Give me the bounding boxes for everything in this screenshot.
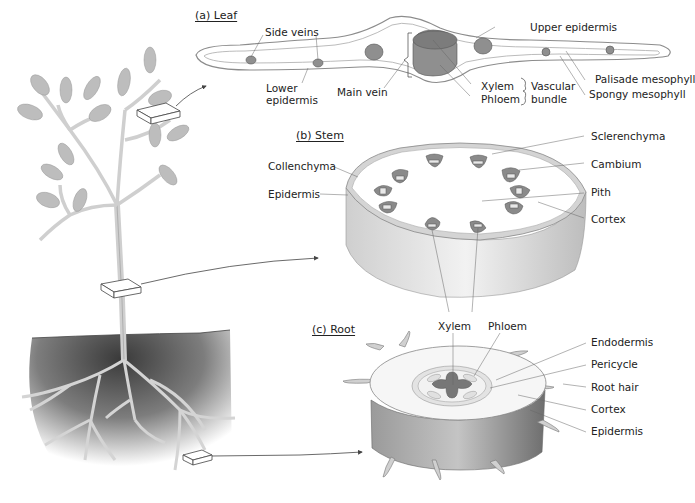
label-lower-epidermis-line2: epidermis [266,94,318,106]
label-side-veins: Side veins [265,26,319,38]
label-root-cortex: Cortex [591,403,626,415]
root-cross-section [343,331,586,480]
label-leaf-phloem: Phloem [481,93,520,105]
label-pith: Pith [591,186,611,198]
leaf-sample-box [137,103,180,124]
root-panel-title: (c) Root [312,323,355,336]
label-root-epidermis: Epidermis [591,425,643,437]
label-upper-epidermis: Upper epidermis [530,21,617,33]
label-leaf-xylem: Xylem [481,80,514,92]
label-vascular-bundle-line1: Vascular [531,80,575,92]
leaf-panel-title: (a) Leaf [195,9,237,22]
label-lower-epidermis-line1: Lower [266,82,297,94]
label-stem-cortex: Cortex [591,213,626,225]
label-collenchyma: Collenchyma [268,160,336,172]
plant-leaves [15,47,191,213]
whole-plant [15,47,235,473]
label-cambium: Cambium [591,158,641,170]
stem-sample-box [101,279,141,298]
label-spongy-mesophyll: Spongy mesophyll [589,88,686,100]
label-palisade-mesophyll: Palisade mesophyll [595,73,695,85]
stem-cross-section [320,136,586,312]
label-pericycle: Pericycle [591,358,638,370]
label-stem-epidermis: Epidermis [268,188,320,200]
label-root-hair: Root hair [591,381,638,393]
label-vascular-bundle-line2: bundle [531,93,567,105]
stem-panel-title: (b) Stem [296,129,344,142]
label-main-vein: Main vein [337,86,388,98]
label-sclerenchyma: Sclerenchyma [591,130,665,142]
label-stem-xylem: Xylem [438,320,471,332]
label-stem-phloem: Phloem [488,320,527,332]
label-endodermis: Endodermis [591,336,653,348]
